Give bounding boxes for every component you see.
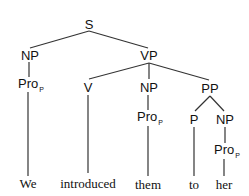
tree-edges [0,0,249,196]
node-np-pp: NP [216,113,234,126]
node-pro-pp: ProP [214,143,240,159]
node-s: S [85,18,94,31]
node-p: P [190,113,199,126]
word-them: them [135,178,161,191]
node-np-object: NP [140,81,158,94]
node-np-subject: NP [21,49,39,62]
node-pro-subject: ProP [18,77,44,93]
word-to: to [189,178,199,191]
word-her: her [216,178,233,191]
node-v: V [84,81,93,94]
syntax-tree-diagram: S NP ProP VP V NP ProP PP P NP ProP We i… [0,0,249,196]
word-introduced: introduced [60,177,116,190]
node-pro-object: ProP [137,110,163,126]
node-vp: VP [140,49,157,62]
node-pp: PP [201,82,218,95]
word-we: We [20,177,37,190]
